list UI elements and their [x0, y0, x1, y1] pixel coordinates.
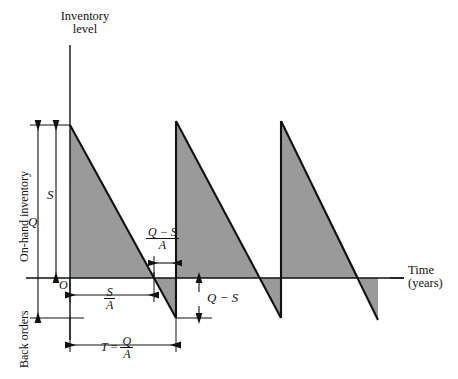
cycle-length-numerator: Q — [120, 335, 133, 347]
on-hand-inventory-areas — [70, 121, 359, 278]
inventory-model-diagram: Inventory level Time (years) O On-hand i… — [0, 0, 458, 379]
x-axis-title-line1: Time — [408, 264, 456, 277]
origin-label: O — [59, 279, 68, 291]
dimension-label-S: S — [47, 188, 54, 201]
dimension-label-cycle-length: T = Q A — [101, 335, 133, 360]
y-axis-title: Inventory level — [42, 10, 128, 36]
y-axis-title-line1: Inventory — [42, 10, 128, 23]
cycle-length-symbol: T — [101, 341, 108, 353]
y-axis-title-line2: level — [42, 23, 128, 36]
time-back-order-numerator: Q − S — [146, 226, 179, 238]
back-orders-region-label: Back orders — [18, 310, 30, 368]
dimension-label-back-order-level: Q − S — [207, 291, 238, 304]
dimension-label-time-on-hand: S A — [104, 286, 115, 311]
time-on-hand-denominator: A — [104, 298, 115, 311]
back-order-areas — [154, 278, 378, 320]
arrowhead-QSA-left — [148, 260, 158, 266]
time-on-hand-numerator: S — [104, 286, 115, 298]
cycle-length-denominator: A — [120, 347, 133, 360]
dimension-label-time-back-order: Q − S A — [146, 226, 179, 251]
cycle-length-equals: = — [111, 341, 118, 353]
inventory-sawtooth-plot — [0, 0, 458, 379]
x-axis-title-line2: (years) — [408, 277, 456, 290]
x-axis-title: Time (years) — [408, 264, 456, 290]
time-back-order-denominator: A — [146, 238, 179, 251]
dimension-label-Q: Q — [28, 215, 37, 228]
